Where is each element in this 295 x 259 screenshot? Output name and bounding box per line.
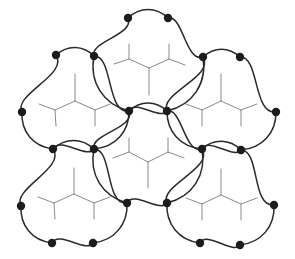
vertex-dot: [89, 239, 97, 247]
vertex-dot: [198, 145, 206, 153]
vertex-dot: [52, 51, 60, 59]
vertex-dot: [123, 199, 131, 207]
vertex-dot: [164, 14, 172, 22]
vertex-dot: [48, 239, 56, 247]
vertex-dot: [18, 108, 26, 116]
vertex-dot: [163, 107, 171, 115]
vertex-dot: [236, 241, 244, 249]
background: [0, 0, 295, 259]
vertex-dot: [125, 107, 133, 115]
vertex-dot: [163, 199, 171, 207]
vertex-dot: [237, 146, 245, 154]
vertex-dot: [270, 201, 278, 209]
tessellation-diagram: [0, 0, 295, 259]
vertex-dot: [90, 52, 98, 60]
vertex-dot: [199, 53, 207, 61]
vertex-dot: [90, 145, 98, 153]
vertex-dot: [49, 145, 57, 153]
vertex-dot: [196, 239, 204, 247]
vertex-dot: [272, 108, 280, 116]
vertex-dot: [17, 202, 25, 210]
vertex-dot: [236, 53, 244, 61]
vertex-dot: [124, 14, 132, 22]
